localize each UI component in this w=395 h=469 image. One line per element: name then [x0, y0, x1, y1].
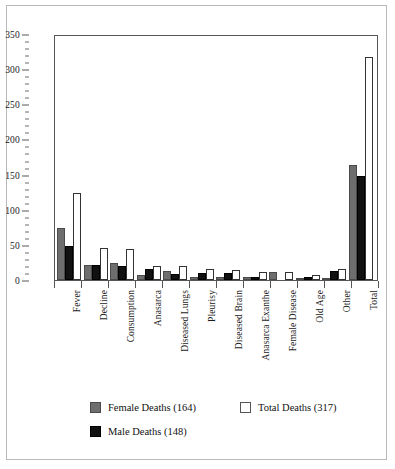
bar-male[interactable] [251, 277, 259, 280]
bar-total[interactable] [338, 269, 346, 280]
y-tick-major [22, 245, 29, 246]
bar-total[interactable] [259, 272, 267, 280]
bar-male[interactable] [65, 246, 73, 280]
bar-male[interactable] [92, 265, 100, 280]
bar-group[interactable] [137, 36, 164, 280]
bar-group[interactable] [84, 36, 111, 280]
y-tick-label: 100 [5, 206, 20, 216]
y-tick-minor [25, 182, 29, 183]
x-tick [378, 281, 379, 288]
bar-male[interactable] [171, 274, 179, 280]
bar-group[interactable] [190, 36, 217, 280]
bar-total[interactable] [365, 57, 373, 280]
chart-legend: Female Deaths (164)Total Deaths (317)Mal… [90, 402, 360, 448]
bar-female[interactable] [349, 165, 357, 280]
x-axis-label: Fever [72, 290, 82, 312]
y-tick-minor [25, 224, 29, 225]
bar-group[interactable] [296, 36, 323, 280]
x-axis-label: Decline [99, 290, 109, 320]
bar-group[interactable] [269, 36, 296, 280]
legend-swatch-male-icon [90, 426, 101, 437]
y-tick-minor [25, 196, 29, 197]
x-tick [351, 281, 352, 288]
bar-female[interactable] [57, 228, 65, 280]
legend-label: Male Deaths (148) [108, 426, 187, 437]
x-axis-label: Other [342, 290, 352, 312]
x-tick [270, 281, 271, 288]
y-tick-label: 0 [15, 276, 20, 286]
legend-swatch-total-icon [240, 402, 251, 413]
y-tick-minor [25, 266, 29, 267]
bar-total[interactable] [100, 248, 108, 280]
x-tick [297, 281, 298, 288]
y-tick-minor [25, 112, 29, 113]
bar-male[interactable] [145, 269, 153, 280]
bar-group[interactable] [322, 36, 349, 280]
y-tick-minor [25, 189, 29, 190]
bar-female[interactable] [190, 277, 198, 281]
bar-group[interactable] [216, 36, 243, 280]
bar-female[interactable] [322, 278, 330, 280]
legend-item[interactable]: Total Deaths (317) [240, 402, 337, 413]
y-tick-minor [25, 77, 29, 78]
y-tick-label: 200 [5, 135, 20, 145]
y-tick-label: 50 [10, 241, 20, 251]
bar-female[interactable] [216, 277, 224, 280]
x-tick [243, 281, 244, 288]
y-axis: 050100150200250300350 [7, 6, 54, 282]
y-tick-major [22, 105, 29, 106]
y-tick-minor [25, 126, 29, 127]
y-tick-major [22, 70, 29, 71]
bar-total[interactable] [126, 249, 134, 280]
bar-male[interactable] [304, 277, 312, 280]
y-tick-minor [25, 49, 29, 50]
x-tick [135, 281, 136, 288]
bar-group[interactable] [163, 36, 190, 280]
y-tick-minor [25, 147, 29, 148]
bar-female[interactable] [243, 277, 251, 281]
y-tick-minor [25, 168, 29, 169]
bar-total[interactable] [73, 193, 81, 280]
x-axis-ticks [54, 281, 378, 289]
bar-female[interactable] [84, 265, 92, 280]
y-tick-major [22, 140, 29, 141]
bar-total[interactable] [179, 266, 187, 280]
x-axis-label: Diseased Brain [234, 290, 244, 349]
y-tick-minor [25, 252, 29, 253]
bar-male[interactable] [198, 273, 206, 280]
legend-item[interactable]: Female Deaths (164) [90, 402, 196, 413]
bar-group[interactable] [110, 36, 137, 280]
x-axis-labels: FeverDeclineConsumptionAnasarcaDiseased … [54, 290, 378, 386]
x-axis-label: Consumption [126, 290, 136, 342]
y-tick-minor [25, 161, 29, 162]
bar-total[interactable] [285, 272, 293, 280]
bar-total[interactable] [206, 269, 214, 280]
bar-total[interactable] [153, 266, 161, 280]
bar-female[interactable] [269, 272, 277, 280]
x-tick [216, 281, 217, 288]
bar-female[interactable] [110, 263, 118, 280]
legend-item[interactable]: Male Deaths (148) [90, 426, 187, 437]
bar-group[interactable] [243, 36, 270, 280]
y-tick-minor [25, 84, 29, 85]
y-tick-minor [25, 133, 29, 134]
y-tick-minor [25, 63, 29, 64]
bar-total[interactable] [312, 275, 320, 280]
y-tick-major [22, 175, 29, 176]
bar-male[interactable] [330, 271, 338, 280]
y-tick-label: 350 [5, 30, 20, 40]
bar-male[interactable] [224, 273, 232, 280]
bar-group[interactable] [57, 36, 84, 280]
bar-group[interactable] [349, 36, 376, 280]
x-axis-label: Anasarca Exanthe [261, 290, 271, 360]
bar-male[interactable] [357, 176, 365, 280]
chart-frame: 050100150200250300350 FeverDeclineConsum… [6, 5, 387, 460]
y-tick-minor [25, 273, 29, 274]
bar-female[interactable] [163, 271, 171, 280]
y-tick-minor [25, 231, 29, 232]
bar-male[interactable] [118, 266, 126, 280]
bar-female[interactable] [137, 275, 145, 280]
bar-female[interactable] [296, 278, 304, 280]
bar-total[interactable] [232, 270, 240, 280]
y-tick-label: 300 [5, 65, 20, 75]
